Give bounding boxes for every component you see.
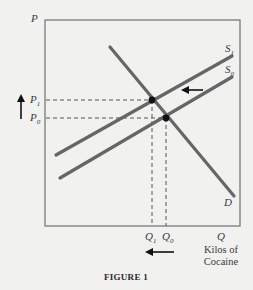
y-tick-p1: P1 bbox=[29, 93, 40, 108]
equilibrium-point-e1 bbox=[149, 97, 156, 104]
y-axis-label: P bbox=[30, 12, 38, 24]
quantity-down-arrow-icon bbox=[145, 248, 174, 256]
plot-frame bbox=[45, 20, 240, 226]
supply-shift-arrow-icon bbox=[181, 86, 203, 94]
x-axis-sublabel-2: Cocaine bbox=[204, 256, 239, 267]
supply-demand-chart: P P1 P0 Q1 Q0 Q Kilos of Cocaine S1 S0 D… bbox=[0, 0, 253, 290]
figure-caption: FIGURE 1 bbox=[104, 272, 148, 282]
curves bbox=[56, 47, 234, 196]
label-s0: S0 bbox=[225, 63, 235, 78]
equilibrium-point-e0 bbox=[163, 115, 170, 122]
x-tick-q0: Q0 bbox=[162, 230, 174, 245]
x-axis-sublabel-1: Kilos of bbox=[204, 244, 239, 255]
label-d: D bbox=[223, 196, 232, 208]
label-s1: S1 bbox=[225, 42, 234, 57]
x-tick-q1: Q1 bbox=[145, 230, 156, 245]
guide-lines bbox=[46, 100, 166, 226]
x-axis-label: Q bbox=[217, 230, 225, 242]
price-up-arrow-icon bbox=[17, 94, 25, 119]
y-tick-p0: P0 bbox=[29, 111, 41, 126]
supply-curve-s1 bbox=[56, 56, 232, 155]
demand-curve bbox=[110, 47, 234, 196]
